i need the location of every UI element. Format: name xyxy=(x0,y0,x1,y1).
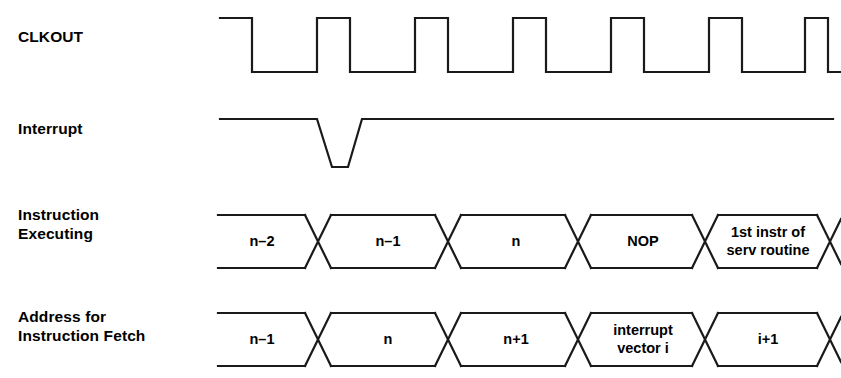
instruction-cell-label: n xyxy=(512,233,521,250)
address-fetch-bus xyxy=(218,313,841,366)
instruction-cell-label: 1st instr of serv routine xyxy=(727,223,810,259)
address-cell-label: n+1 xyxy=(503,331,528,348)
timing-diagram: CLKOUT Interrupt Instruction Executing A… xyxy=(0,0,841,378)
address-cell-label: n xyxy=(384,331,393,348)
instruction-cell-label: NOP xyxy=(627,233,658,250)
interrupt-waveform xyxy=(220,119,833,167)
clkout-waveform xyxy=(220,18,841,72)
row-label-interrupt: Interrupt xyxy=(18,119,83,138)
instruction-cell-label: n–1 xyxy=(376,233,401,250)
instruction-cell-label: n–2 xyxy=(250,233,275,250)
row-label-clkout: CLKOUT xyxy=(18,27,83,46)
address-cell-label: interrupt vector i xyxy=(613,321,673,357)
address-cell-label: i+1 xyxy=(758,331,779,348)
row-label-instruction-executing: Instruction Executing xyxy=(18,205,99,243)
address-cell-label: n–1 xyxy=(250,331,275,348)
row-label-address-fetch: Address for Instruction Fetch xyxy=(18,307,145,345)
